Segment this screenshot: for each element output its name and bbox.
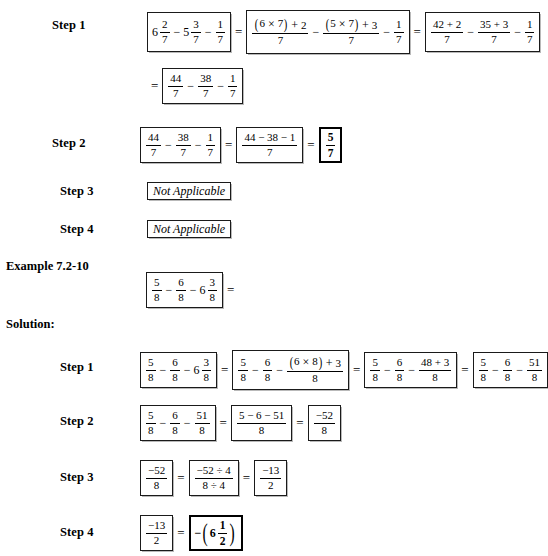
equals-sign: = (231, 24, 246, 40)
fraction: 5 8 (238, 357, 248, 383)
denominator: 7 (478, 32, 510, 46)
numerator: 48 + 3 (419, 357, 451, 370)
fraction: 1 7 (394, 19, 404, 45)
denominator: 8 (314, 423, 335, 437)
times-operator: × (336, 18, 349, 31)
fraction: −52 ÷ 4 8 ÷ 4 (195, 465, 233, 491)
fraction: 5 − 6 − 51 8 (237, 410, 286, 436)
numerator: 2 (160, 19, 170, 32)
denominator: 7 (326, 145, 336, 159)
example1-step4-row: Step 4 Not Applicable (60, 220, 231, 238)
addend: 3 (372, 19, 378, 31)
math-box: 5 8 − 6 8 − (6×8) +3 8 (232, 350, 349, 390)
fraction: 6 8 (170, 410, 180, 436)
whole-part: 6 (200, 284, 207, 296)
close-paren: ) (230, 523, 235, 543)
expression: 44 7 − 38 7 − 1 7 (167, 73, 238, 99)
numerator: (5×7) +3 (323, 18, 379, 33)
denominator: 7 (431, 32, 463, 46)
numerator: 1 (218, 519, 228, 532)
close-paren: ) (319, 356, 323, 368)
example-heading: Example 7.2-10 (6, 259, 89, 274)
expression: 5 8 − 6 8 − 6 3 8 (151, 277, 218, 303)
expression: 5 8 − 6 8 − 6 3 8 (145, 357, 212, 383)
open-paren: ( (290, 356, 294, 368)
expression: 5 8 − 6 8 − (6×8) +3 8 (237, 356, 344, 384)
open-paren: ( (326, 18, 330, 30)
equals-sign: = (147, 78, 162, 94)
math-box: 5 8 − 6 8 − 51 8 (140, 405, 216, 441)
numerator: −13 (260, 465, 281, 478)
step-label-2a: Step 2 (52, 136, 86, 151)
numerator: (6×8) +3 (287, 356, 343, 371)
minus-operator: − (181, 364, 194, 376)
math-box-not-applicable: Not Applicable (147, 182, 231, 200)
not-applicable-text: Not Applicable (152, 222, 226, 237)
numerator: 5 (238, 357, 248, 370)
numerator: 5 (370, 357, 380, 370)
fraction: 2 7 (160, 19, 170, 45)
minus-operator: − (157, 364, 170, 376)
fraction: −52 8 (314, 410, 335, 436)
expression: 6 2 7 − 5 3 7 − 1 7 (152, 19, 226, 45)
minus-operator: − (381, 364, 394, 376)
denominator: 7 (198, 86, 213, 100)
example2-step3-label-row: Step 3 (60, 470, 94, 485)
fraction: 1 7 (216, 19, 226, 45)
minus-operator: − (162, 139, 175, 151)
numerator: 6 (170, 357, 180, 370)
equals-sign: = (217, 362, 232, 378)
math-box: −52 ÷ 4 8 ÷ 4 (189, 460, 239, 496)
denominator: 7 (176, 145, 191, 159)
minus-operator: − (309, 26, 322, 38)
denominator: 7 (168, 86, 183, 100)
example2-step1-row: 5 8 − 6 8 − 6 3 8 = (140, 350, 548, 390)
minus-operator: − (489, 364, 502, 376)
fraction: 5 8 (146, 410, 156, 436)
expression: 5 8 − 6 8 − 48 + 3 8 (369, 357, 452, 383)
example1-step2-row: 44 7 − 38 7 − 1 7 = 44 − 38 − 1 7 (140, 127, 342, 163)
numerator: 35 + 3 (478, 19, 510, 32)
example1-step1-expression-row: 6 2 7 − 5 3 7 − 1 7 (147, 10, 540, 54)
numerator: 1 (206, 132, 216, 145)
numerator: (6×7) +2 (252, 18, 308, 33)
denominator: 8 (263, 370, 273, 384)
fraction: 51 8 (527, 357, 542, 383)
numerator: 6 (263, 357, 273, 370)
denominator: 8 (170, 423, 180, 437)
denominator: 2 (146, 533, 167, 547)
example2-step1-label-row: Step 1 (60, 360, 94, 375)
minus-operator: − (181, 417, 194, 429)
denominator: 7 (394, 32, 404, 46)
plus-operator: + (359, 19, 372, 32)
whole-part: 6 (152, 26, 159, 38)
math-box-not-applicable: Not Applicable (147, 220, 231, 238)
example2-step4-row: −13 2 = − ( 6 1 2 ) (140, 515, 243, 551)
math-box: −13 2 (254, 460, 287, 496)
fraction: 3 8 (208, 277, 218, 303)
equals-sign: = (239, 470, 254, 486)
denominator: 7 (228, 86, 238, 100)
minus-operator: − (171, 26, 184, 38)
numerator: 51 (527, 357, 542, 370)
math-box: −52 8 (140, 460, 173, 496)
step-label-3b: Step 3 (60, 470, 94, 485)
minus-operator: − (464, 26, 477, 38)
math-box: 6 2 7 − 5 3 7 − 1 7 (147, 12, 231, 52)
fraction: 42 + 2 7 (431, 19, 463, 45)
numerator: 6 (503, 357, 513, 370)
numerator: 44 (146, 132, 161, 145)
numerator: 5 (152, 277, 162, 290)
fraction: 5 8 (479, 357, 489, 383)
expression: 44 7 − 38 7 − 1 7 (145, 132, 216, 158)
example2-step3-row: −52 8 = −52 ÷ 4 8 ÷ 4 = −13 2 (140, 460, 287, 496)
paren-group: (5×7) (325, 18, 359, 31)
mixed-number: 5 3 7 (183, 19, 202, 45)
fraction: 44 7 (146, 132, 161, 158)
denominator: 7 (525, 32, 535, 46)
denominator: 7 (242, 145, 297, 159)
denominator: 8 (146, 478, 167, 492)
minus-operator: − (163, 284, 176, 296)
numerator: −13 (146, 520, 167, 533)
denominator: 8 (237, 423, 286, 437)
